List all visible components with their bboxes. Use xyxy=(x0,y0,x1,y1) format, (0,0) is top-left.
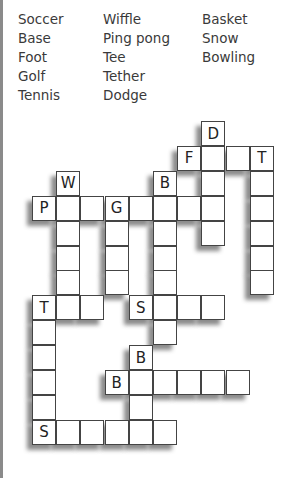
crossword-cell[interactable] xyxy=(56,246,80,271)
crossword-cell[interactable]: T xyxy=(250,146,274,171)
crossword-cell[interactable] xyxy=(105,420,129,445)
crossword-cell[interactable] xyxy=(250,270,274,295)
crossword-cell[interactable] xyxy=(201,171,225,196)
crossword-cell[interactable]: S xyxy=(32,420,56,445)
crossword-cell[interactable]: B xyxy=(153,171,177,196)
crossword-cell[interactable] xyxy=(56,295,80,320)
crossword-cell[interactable] xyxy=(153,270,177,295)
crossword-cell[interactable] xyxy=(153,370,177,395)
crossword-cell[interactable] xyxy=(32,370,56,395)
crossword-cell[interactable]: B xyxy=(105,370,129,395)
crossword-cell[interactable] xyxy=(226,146,250,171)
crossword-cell[interactable] xyxy=(201,196,225,221)
crossword-cell[interactable] xyxy=(153,320,177,345)
crossword-cell[interactable]: P xyxy=(32,196,56,221)
crossword-cell[interactable] xyxy=(129,420,153,445)
crossword-cell[interactable] xyxy=(56,420,80,445)
crossword-cell[interactable] xyxy=(250,221,274,246)
crossword-grid: DFTWBPGTSSBB xyxy=(0,0,290,478)
crossword-cell[interactable] xyxy=(105,246,129,271)
crossword-cell[interactable] xyxy=(105,221,129,246)
crossword-cell[interactable]: S xyxy=(129,295,153,320)
crossword-cell[interactable] xyxy=(153,295,177,320)
crossword-cell[interactable] xyxy=(226,370,250,395)
crossword-cell[interactable] xyxy=(129,196,153,221)
crossword-cell[interactable] xyxy=(153,196,177,221)
crossword-cell[interactable] xyxy=(129,370,153,395)
crossword-cell[interactable] xyxy=(201,295,225,320)
crossword-cell[interactable] xyxy=(177,196,201,221)
crossword-cell[interactable]: W xyxy=(56,171,80,196)
crossword-cell[interactable] xyxy=(153,246,177,271)
crossword-cell[interactable] xyxy=(129,395,153,420)
crossword-cell[interactable]: G xyxy=(105,196,129,221)
crossword-cell[interactable] xyxy=(153,420,177,445)
crossword-cell[interactable] xyxy=(250,246,274,271)
crossword-cell[interactable] xyxy=(56,270,80,295)
crossword-cell[interactable] xyxy=(80,420,104,445)
crossword-cell[interactable] xyxy=(201,370,225,395)
crossword-cell[interactable]: T xyxy=(32,295,56,320)
crossword-cell[interactable] xyxy=(250,171,274,196)
crossword-cell[interactable] xyxy=(201,221,225,246)
crossword-cell[interactable] xyxy=(32,320,56,345)
crossword-cell[interactable] xyxy=(32,345,56,370)
crossword-cell[interactable] xyxy=(153,221,177,246)
crossword-cell[interactable] xyxy=(201,146,225,171)
crossword-cell[interactable] xyxy=(177,295,201,320)
crossword-cell[interactable] xyxy=(250,196,274,221)
crossword-cell[interactable] xyxy=(80,295,104,320)
crossword-cell[interactable]: F xyxy=(177,146,201,171)
crossword-cell[interactable] xyxy=(56,196,80,221)
crossword-cell[interactable]: D xyxy=(201,121,225,146)
crossword-cell[interactable] xyxy=(80,196,104,221)
crossword-cell[interactable] xyxy=(105,270,129,295)
crossword-cell[interactable] xyxy=(32,395,56,420)
crossword-cell[interactable]: B xyxy=(129,345,153,370)
crossword-cell[interactable] xyxy=(177,370,201,395)
crossword-cell[interactable] xyxy=(56,221,80,246)
